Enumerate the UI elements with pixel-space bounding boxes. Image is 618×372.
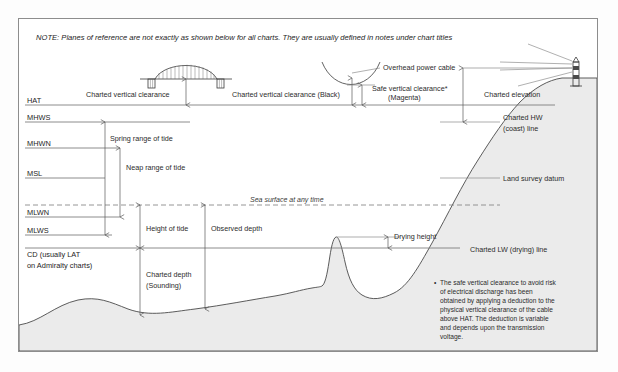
- power-cable-catenary: [322, 62, 380, 85]
- bridge-pier-right: [217, 79, 224, 88]
- charted-depth-label-2: (Sounding): [146, 281, 181, 290]
- datum-label-cd-line2: on Admiralty charts): [27, 261, 92, 270]
- diagram-canvas: NOTE: Planes of reference are not exactl…: [0, 0, 618, 372]
- charted-hw-label-2: (coast) line: [503, 124, 538, 133]
- datum-label-hat: HAT: [27, 96, 42, 105]
- footnote-line-2: of electrical discharge has been: [440, 288, 533, 296]
- footnote-line-3: obtained by applying a deduction to the: [440, 297, 555, 305]
- bridge-hatching: [159, 65, 214, 79]
- footnote-line-6: and depends upon the transmission: [440, 324, 545, 332]
- lighthouse-band-2: [573, 75, 579, 79]
- datum-label-mhwn: MHWN: [27, 139, 51, 148]
- spring-range-label: Spring range of tide: [110, 134, 173, 143]
- height-of-tide-label: Height of tide: [146, 224, 188, 233]
- charted-vertical-clearance-label: Charted vertical clearance: [86, 90, 170, 99]
- bridge-arch: [155, 66, 217, 80]
- bridge-pier-left: [148, 79, 155, 88]
- drying-height-label: Drying height: [394, 232, 436, 241]
- note-text: NOTE: Planes of reference are not exactl…: [36, 33, 452, 42]
- charted-depth-label-1: Charted depth: [146, 270, 192, 279]
- footnote-line-1: The safe vertical clearance to avoid ris…: [440, 279, 557, 286]
- footnote-line-5: above HAT. The deduction is variable: [440, 315, 549, 322]
- footnote-line-7: voltage.: [440, 333, 463, 341]
- chart-datums-svg: NOTE: Planes of reference are not exactl…: [0, 0, 618, 372]
- overhead-power-cable-structure: [322, 62, 380, 85]
- lighthouse-ray-1: [528, 44, 572, 61]
- lighthouse-ray-2: [500, 62, 572, 64]
- datum-label-msl: MSL: [27, 169, 42, 178]
- neap-range-label: Neap range of tide: [126, 163, 185, 172]
- lighthouse-band-1: [573, 66, 579, 70]
- charted-lw-label: Charted LW (drying) line: [470, 245, 547, 254]
- datum-label-mlws: MLWS: [27, 226, 49, 235]
- charted-hw-label-1: Charted HW: [503, 113, 543, 122]
- sea-surface-label: Sea surface at any time: [250, 196, 324, 204]
- footnote-line-4: physical vertical clearance of the cable: [440, 306, 553, 314]
- charted-vertical-clearance-black-label: Charted vertical clearance (Black): [232, 90, 340, 99]
- lighthouse-lantern: [573, 57, 579, 62]
- overhead-power-cable-label: Overhead power cable: [383, 63, 455, 72]
- datum-label-mlwn: MLWN: [27, 208, 49, 217]
- observed-depth-label: Observed depth: [211, 224, 262, 233]
- safe-vertical-clearance-label-1: Safe vertical clearance*: [372, 84, 448, 93]
- safe-vertical-clearance-label-2: (Magenta): [388, 93, 421, 102]
- land-survey-datum-label: Land survey datum: [503, 174, 564, 183]
- datum-label-mhws: MHWS: [27, 113, 50, 122]
- datum-label-cd-line1: CD (usually LAT: [27, 250, 81, 259]
- charted-elevation-label: Charted elevation: [484, 90, 540, 99]
